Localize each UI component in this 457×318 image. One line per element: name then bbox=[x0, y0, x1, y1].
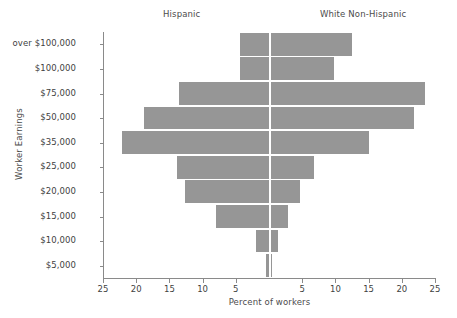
bar-white-non-hispanic bbox=[269, 131, 369, 154]
x-tick-mark bbox=[169, 279, 170, 283]
bar-white-non-hispanic bbox=[269, 180, 300, 203]
y-tick-label: $20,000 bbox=[0, 186, 76, 196]
bar-hispanic bbox=[122, 131, 269, 154]
y-tick-label: $50,000 bbox=[0, 112, 76, 122]
legend-label-hispanic: Hispanic bbox=[163, 9, 200, 19]
y-tick-mark bbox=[100, 118, 103, 119]
y-tick-label: $100,000 bbox=[0, 63, 76, 73]
y-tick-mark bbox=[100, 192, 103, 193]
x-tick-mark bbox=[302, 279, 303, 283]
y-tick-label: $15,000 bbox=[0, 211, 76, 221]
x-tick-label: 5 bbox=[216, 284, 256, 294]
x-tick-mark bbox=[203, 279, 204, 283]
bar-hispanic bbox=[240, 57, 269, 80]
plot-area: over $100,000$100,000$75,000$50,000$35,0… bbox=[103, 32, 436, 278]
bar-white-non-hispanic bbox=[269, 33, 352, 56]
y-tick-mark bbox=[100, 44, 103, 45]
y-tick-label: $75,000 bbox=[0, 88, 76, 98]
bar-hispanic bbox=[256, 230, 269, 253]
bar-hispanic bbox=[185, 180, 269, 203]
y-tick-label: $10,000 bbox=[0, 235, 76, 245]
bar-hispanic bbox=[144, 107, 269, 130]
center-divider-line bbox=[269, 32, 271, 278]
x-tick-mark bbox=[435, 279, 436, 283]
y-tick-label: $35,000 bbox=[0, 137, 76, 147]
y-tick-label: $5,000 bbox=[0, 260, 76, 270]
y-tick-mark bbox=[100, 167, 103, 168]
bar-white-non-hispanic bbox=[269, 156, 314, 179]
bar-white-non-hispanic bbox=[269, 82, 425, 105]
bar-hispanic bbox=[177, 156, 269, 179]
y-tick-mark bbox=[100, 94, 103, 95]
y-tick-mark bbox=[100, 143, 103, 144]
legend-label-white-non-hispanic: White Non-Hispanic bbox=[320, 9, 406, 19]
x-tick-mark bbox=[103, 279, 104, 283]
x-tick-mark bbox=[136, 279, 137, 283]
y-tick-mark bbox=[100, 69, 103, 70]
population-pyramid-chart: Hispanic White Non-Hispanic Worker Earni… bbox=[0, 0, 457, 318]
y-tick-mark bbox=[100, 241, 103, 242]
bar-white-non-hispanic bbox=[269, 205, 288, 228]
x-tick-label: 25 bbox=[415, 284, 455, 294]
x-tick-mark bbox=[402, 279, 403, 283]
y-tick-mark bbox=[100, 266, 103, 267]
x-tick-mark bbox=[369, 279, 370, 283]
x-tick-mark bbox=[335, 279, 336, 283]
x-axis-line bbox=[103, 278, 436, 279]
x-axis-title: Percent of workers bbox=[103, 297, 436, 307]
bar-white-non-hispanic bbox=[269, 57, 334, 80]
y-tick-mark bbox=[100, 217, 103, 218]
bar-white-non-hispanic bbox=[269, 107, 414, 130]
bar-hispanic bbox=[179, 82, 269, 105]
bar-hispanic bbox=[216, 205, 269, 228]
y-tick-label: $25,000 bbox=[0, 161, 76, 171]
x-tick-mark bbox=[236, 279, 237, 283]
bar-hispanic bbox=[240, 33, 269, 56]
y-tick-label: over $100,000 bbox=[0, 38, 76, 48]
